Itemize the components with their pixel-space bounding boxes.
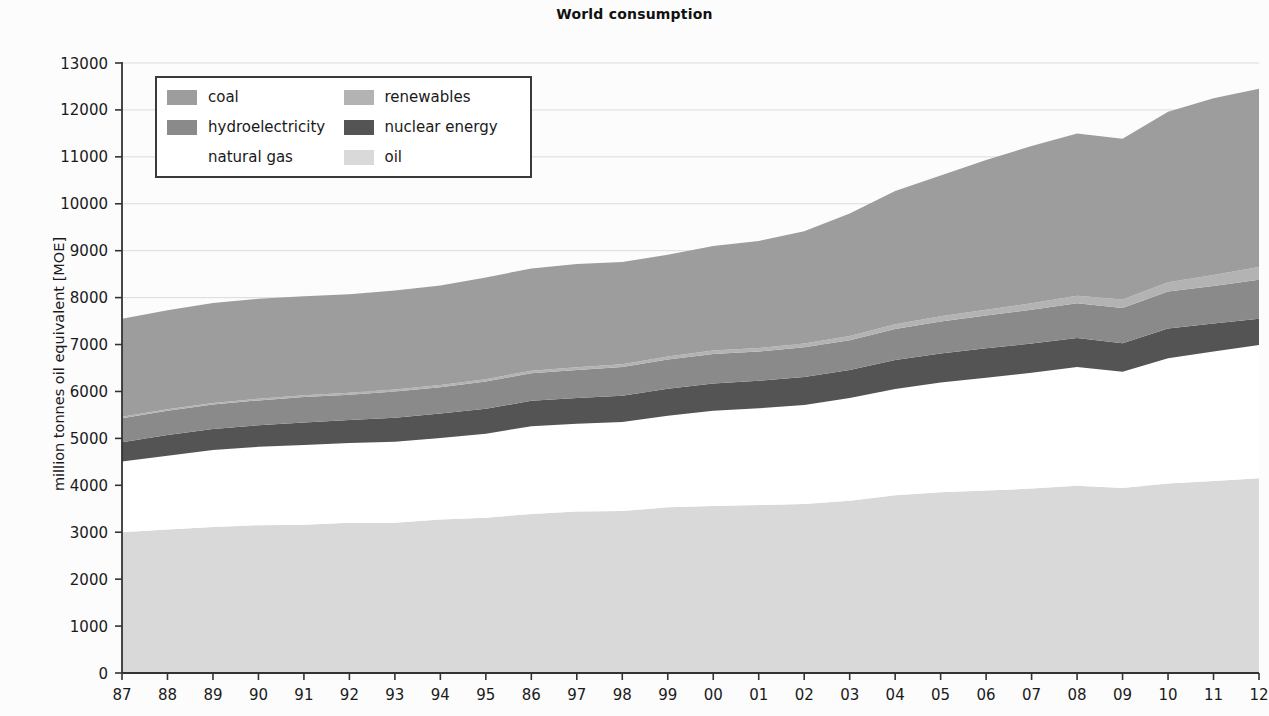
svg-text:12000: 12000 [60, 101, 108, 119]
x-tick-label: 90 [249, 686, 268, 704]
legend-row: coal renewables [167, 82, 520, 112]
svg-text:4000: 4000 [70, 477, 108, 495]
svg-text:7000: 7000 [70, 336, 108, 354]
svg-text:6000: 6000 [70, 383, 108, 401]
x-tick-label: 99 [658, 686, 677, 704]
svg-text:8000: 8000 [70, 289, 108, 307]
x-tick-label: 87 [112, 686, 131, 704]
legend-swatch-hydroelectricity [167, 120, 197, 135]
legend-row: hydroelectricity nuclear energy [167, 112, 520, 142]
x-tick-label: 95 [476, 686, 495, 704]
legend-label-nuclear-energy: nuclear energy [385, 118, 498, 136]
legend-row: natural gas oil [167, 142, 520, 172]
x-tick-label: 93 [385, 686, 404, 704]
x-tick-label: 08 [1068, 686, 1087, 704]
svg-text:0: 0 [98, 665, 108, 683]
y-axis-ticks: 0100020003000400050006000700080009000100… [60, 55, 122, 683]
legend-label-oil: oil [385, 148, 403, 166]
x-tick-label: 94 [431, 686, 450, 704]
x-tick-label: 05 [931, 686, 950, 704]
x-tick-label: 97 [567, 686, 586, 704]
legend-entry-nuclear-energy[interactable]: nuclear energy [344, 118, 521, 136]
x-tick-label: 10 [1158, 686, 1177, 704]
x-tick-label: 09 [1113, 686, 1132, 704]
x-tick-label: 06 [977, 686, 996, 704]
legend-entry-hydroelectricity[interactable]: hydroelectricity [167, 118, 344, 136]
x-tick-label: 07 [1022, 686, 1041, 704]
x-tick-label: 04 [886, 686, 905, 704]
legend-entry-oil[interactable]: oil [344, 148, 521, 166]
legend-entry-coal[interactable]: coal [167, 88, 344, 106]
legend-swatch-coal [167, 90, 197, 105]
legend-entry-renewables[interactable]: renewables [344, 88, 521, 106]
x-tick-label: 86 [522, 686, 541, 704]
legend-label-coal: coal [208, 88, 239, 106]
legend-swatch-nuclear-energy [344, 120, 374, 135]
x-tick-label: 01 [749, 686, 768, 704]
x-tick-label: 03 [840, 686, 859, 704]
legend-entry-natural-gas[interactable]: natural gas [167, 148, 344, 166]
legend-swatch-renewables [344, 90, 374, 105]
svg-text:13000: 13000 [60, 55, 108, 73]
svg-text:1000: 1000 [70, 618, 108, 636]
legend-swatch-natural-gas [167, 150, 197, 165]
x-tick-label: 98 [613, 686, 632, 704]
x-tick-label: 02 [795, 686, 814, 704]
svg-text:9000: 9000 [70, 242, 108, 260]
x-tick-label: 88 [158, 686, 177, 704]
svg-text:3000: 3000 [70, 524, 108, 542]
x-axis-ticks: 8788899091929394958697989900010203040506… [112, 673, 1268, 704]
x-tick-label: 12 [1249, 686, 1268, 704]
x-tick-label: 11 [1204, 686, 1223, 704]
legend-label-natural-gas: natural gas [208, 148, 293, 166]
x-tick-label: 92 [340, 686, 359, 704]
svg-text:2000: 2000 [70, 571, 108, 589]
x-tick-label: 91 [294, 686, 313, 704]
svg-text:11000: 11000 [60, 148, 108, 166]
svg-text:5000: 5000 [70, 430, 108, 448]
x-tick-label: 89 [203, 686, 222, 704]
chart-legend: coal renewables hydroelectricity nuclear… [155, 76, 532, 178]
legend-swatch-oil [344, 150, 374, 165]
chart-figure: World consumption million tonnes oil equ… [0, 0, 1269, 716]
legend-label-hydroelectricity: hydroelectricity [208, 118, 325, 136]
svg-text:10000: 10000 [60, 195, 108, 213]
x-tick-label: 00 [704, 686, 723, 704]
legend-label-renewables: renewables [385, 88, 471, 106]
